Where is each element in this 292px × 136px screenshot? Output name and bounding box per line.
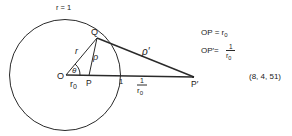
label-p-prime: P′ <box>191 79 199 89</box>
label-theta: θ <box>72 66 77 75</box>
inverse-numerator: 1 <box>140 77 144 84</box>
segment-qp-prime <box>97 38 194 77</box>
circle-label: r = 1 <box>56 3 71 12</box>
label-r0: r0 <box>70 79 77 90</box>
unit-mark-label: 1 <box>119 77 123 86</box>
equation-op-prime-denominator: r0 <box>226 52 231 61</box>
label-rho-prime: ρ′ <box>141 46 151 57</box>
inverse-denominator: r0 <box>137 86 144 96</box>
label-o: O <box>57 71 64 81</box>
equation-op-prime-numerator: 1 <box>229 43 233 50</box>
point-p-prime-dot <box>192 76 194 78</box>
equation-number: (8, 4, 51) <box>249 72 281 81</box>
axis-line <box>66 75 194 77</box>
label-p: P <box>86 78 92 88</box>
equations-block: OP = r0 OP′= 1 r0 <box>201 28 235 61</box>
inverse-fraction: 1 r0 <box>137 77 147 96</box>
label-rho: ρ <box>92 52 98 62</box>
equation-op-prime: OP′= <box>201 46 219 55</box>
inversion-diagram: r = 1 O P Q P′ r ρ ρ′ θ r0 1 1 r0 OP = r… <box>0 0 292 136</box>
label-r: r <box>75 46 79 56</box>
equation-op: OP = r0 <box>201 28 228 38</box>
label-q: Q <box>91 27 98 37</box>
